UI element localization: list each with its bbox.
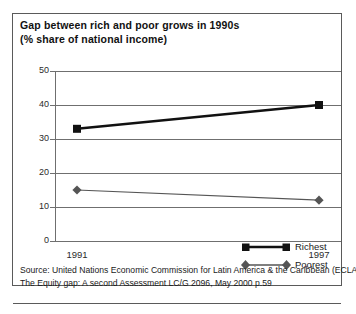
- chart-title-line-1: Gap between rich and poor grows in 1990s: [20, 19, 336, 33]
- chart-title-block: Gap between rich and poor grows in 1990s…: [20, 19, 336, 46]
- source-separator: [13, 303, 341, 304]
- series-line: [77, 190, 319, 200]
- series-richest: [73, 101, 323, 133]
- series-line: [77, 105, 319, 129]
- chart-title-line-2: (% share of national income): [20, 33, 336, 47]
- legend-item-richest: Richest: [241, 238, 337, 256]
- data-point-marker: [73, 125, 81, 133]
- series-poorest: [72, 185, 323, 204]
- data-point-marker: [72, 185, 81, 194]
- data-point-marker: [315, 101, 323, 109]
- series-layer: [13, 58, 341, 260]
- source-line-2: The Equity gap: A second Assessment LC/G…: [20, 277, 338, 290]
- chart-figure: Gap between rich and poor grows in 1990s…: [12, 13, 342, 286]
- source-line-1: Source: United Nations Economic Commissi…: [20, 264, 338, 277]
- plot-area: 01020304050 19911997 Richest Poorest: [13, 58, 341, 260]
- legend-swatch-richest: [241, 238, 291, 256]
- data-point-marker: [314, 196, 323, 205]
- source-block: Source: United Nations Economic Commissi…: [20, 264, 338, 289]
- legend-label-richest: Richest: [295, 241, 327, 252]
